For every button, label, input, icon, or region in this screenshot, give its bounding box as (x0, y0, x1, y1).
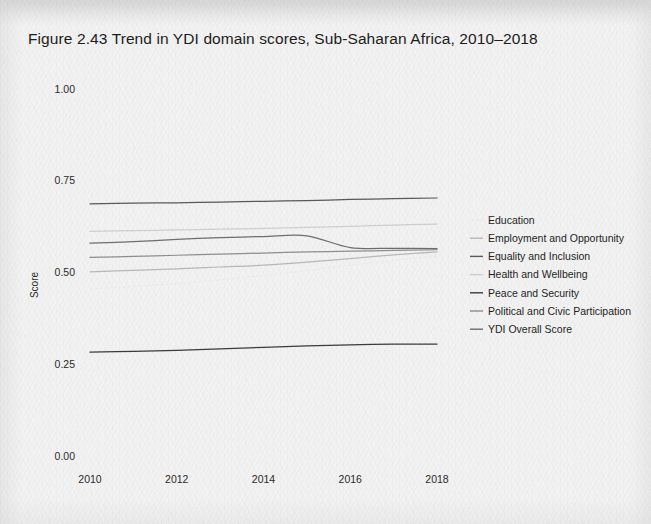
legend-label: Political and Civic Participation (488, 305, 631, 317)
x-tick-label: 2016 (339, 473, 363, 485)
legend-label: Employment and Opportunity (488, 232, 625, 244)
y-tick-label: 1.00 (55, 83, 76, 95)
x-axis-tick-labels: 20102012201420162018 (78, 473, 449, 485)
y-axis-title: Score (29, 272, 40, 299)
series-line (90, 224, 437, 231)
y-tick-label: 0.75 (55, 174, 76, 186)
x-tick-label: 2018 (425, 473, 449, 485)
y-tick-label: 0.50 (55, 266, 76, 278)
legend-label: Equality and Inclusion (488, 250, 590, 262)
series-line (90, 256, 437, 289)
y-tick-label: 0.00 (55, 450, 76, 462)
scan-edge-strip (0, 0, 651, 14)
series-line (90, 235, 437, 249)
series-lines-group (90, 198, 437, 352)
chart-figure: 0.000.250.500.751.00 2010201220142016201… (0, 0, 651, 524)
y-tick-label: 0.25 (55, 358, 76, 370)
series-line (90, 344, 437, 352)
legend-label: Health and Wellbeing (488, 268, 588, 280)
chart-legend: EducationEmployment and OpportunityEqual… (470, 214, 631, 335)
series-line (90, 250, 437, 258)
x-tick-label: 2012 (165, 473, 189, 485)
x-tick-label: 2014 (252, 473, 276, 485)
chart-svg: 0.000.250.500.751.00 2010201220142016201… (0, 0, 651, 524)
legend-label: Education (488, 214, 535, 226)
legend-label: YDI Overall Score (488, 323, 572, 335)
series-line (90, 198, 437, 204)
legend-label: Peace and Security (488, 287, 580, 299)
y-axis-tick-labels: 0.000.250.500.751.00 (55, 83, 76, 462)
x-tick-label: 2010 (78, 473, 102, 485)
